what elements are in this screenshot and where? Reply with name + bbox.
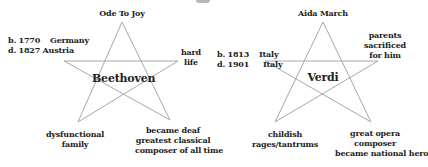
verdi-right-line: parents xyxy=(360,30,410,40)
verdi-name: Verdi xyxy=(293,72,353,84)
beethoven-born: b. 1770 xyxy=(8,35,40,45)
verdi-br-line: became national hero xyxy=(335,148,415,158)
verdi-born-place: Italy xyxy=(259,49,278,59)
verdi-br-line: great opera xyxy=(335,128,415,138)
verdi-left-label: b. 1813Italy d. 1901Italy xyxy=(217,49,282,69)
beethoven-top-label: Ode To Joy xyxy=(92,8,152,18)
verdi-bottom-left-label: childish rages/tantrums xyxy=(252,129,318,149)
verdi-br-line: composer xyxy=(335,138,415,148)
verdi-born: b. 1813 xyxy=(217,49,249,59)
verdi-right-line: for him xyxy=(360,50,410,60)
verdi-right-label: parents sacrificed for him xyxy=(360,30,410,60)
verdi-top-text: Aida March xyxy=(298,8,348,18)
verdi-bottom-right-label: great opera composer became national her… xyxy=(335,128,415,158)
beethoven-bottom-left-label: dysfunctional family xyxy=(40,129,110,149)
verdi-died-place: Italy xyxy=(263,59,282,69)
beethoven-right-line: life xyxy=(179,57,203,67)
verdi-right-line: sacrificed xyxy=(360,40,410,50)
beethoven-bl-line: dysfunctional xyxy=(40,129,110,139)
beethoven-right-line: hard xyxy=(179,47,203,57)
verdi-bl-line: rages/tantrums xyxy=(252,139,318,149)
verdi-died: d. 1901 xyxy=(217,59,249,69)
beethoven-born-place: Germany xyxy=(50,35,89,45)
beethoven-top-text: Ode To Joy xyxy=(99,8,144,18)
beethoven-br-line: composer of all time xyxy=(135,145,211,155)
verdi-top-label: Aida March xyxy=(293,8,353,18)
beethoven-bottom-right-label: became deaf greatest classical composer … xyxy=(135,125,211,155)
beethoven-left-label: b. 1770Germany d. 1827 Austria xyxy=(8,35,89,55)
beethoven-name: Beethoven xyxy=(92,73,152,85)
beethoven-br-line: greatest classical xyxy=(135,135,211,145)
beethoven-br-line: became deaf xyxy=(135,125,211,135)
beethoven-died: d. 1827 Austria xyxy=(8,45,89,55)
beethoven-right-label: hard life xyxy=(179,47,203,67)
beethoven-bl-line: family xyxy=(40,139,110,149)
verdi-bl-line: childish xyxy=(252,129,318,139)
